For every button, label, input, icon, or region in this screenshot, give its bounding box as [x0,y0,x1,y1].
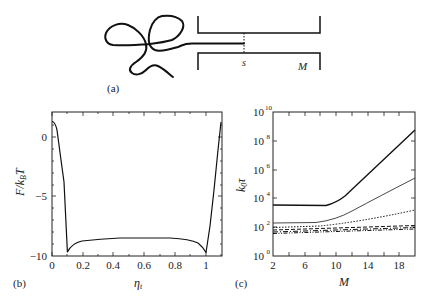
y-tick-1e6: 10 [253,164,265,176]
x-tick-1: 1 [203,259,209,271]
m-label: M [297,60,308,72]
s-label: s [242,57,246,68]
figure: s M (a) [0,0,429,304]
y-tick-exp-8: 8 [267,133,271,141]
pore-top-wall [198,16,320,33]
polymer-chain [105,16,244,77]
y-tick-0: 0 [42,131,48,143]
y-tick-1e4: 10 [253,192,265,204]
x-tick-18: 18 [394,259,406,271]
panel-b-y-axis-label: F/kBT [13,167,28,197]
y-tick-exp-0: 0 [267,248,271,256]
panel-b-line [52,122,72,253]
panel-c-label: (c) [235,277,248,290]
y-tick-1e2: 10 [253,221,265,233]
panel-c-curve-2-solid-thin [273,178,415,223]
panel-a-label: (a) [107,82,120,95]
panel-c-axes-frame [273,112,415,256]
panel-c-curve-1-solid-thick [273,130,415,206]
x-tick-0.4: 0.4 [106,259,120,271]
panel-b-free-energy-line [52,122,68,253]
y-label-tail: τ [234,178,248,183]
panel-a-diagram: s M (a) [105,16,320,95]
y-tick-1e8: 10 [253,135,265,147]
panel-c-y-axis-label: k0τ [234,178,249,192]
panel-b-axes-frame [52,112,222,256]
y-tick-1e0: 10 [253,250,265,262]
panel-b-y-tick-labels: 0 −5 −10 [30,131,48,262]
panel-c-x-axis-label: M [338,275,350,289]
panel-c-x-tick-labels: 2 6 10 14 18 [270,259,405,271]
x-label-sub: t [140,282,143,291]
y-tick-exp-2: 2 [267,219,271,227]
panel-b-free-energy-curve [52,122,75,253]
x-tick-0.6: 0.6 [137,259,151,271]
y-tick-exp-6: 6 [267,162,271,170]
x-tick-0: 0 [49,259,55,271]
panel-c-chart: 2 6 10 14 18 10 0 10 2 10 4 10 6 10 8 10… [234,104,415,290]
panel-b-y-ticks [52,125,222,244]
x-tick-0.2: 0.2 [76,259,90,271]
y-tick-minus-5: −5 [35,190,47,202]
panel-c-x-ticks [289,112,399,256]
y-label-tail: T [13,167,27,175]
y-tick-exp-4: 4 [267,190,271,198]
panel-b-chart: 0 0.2 0.4 0.6 0.8 1 0 −5 −10 ηt F/kBT (b… [13,112,222,291]
panel-c-y-ticks [273,141,415,227]
y-tick-minus-10: −10 [30,250,48,262]
x-tick-10: 10 [331,259,343,271]
panel-b-x-axis-label: ηt [134,276,143,291]
x-tick-0.8: 0.8 [168,259,182,271]
panel-b-curve [52,122,71,253]
panel-b-x-tick-labels: 0 0.2 0.4 0.6 0.8 1 [49,259,209,271]
panel-c-y-tick-labels: 10 0 10 2 10 4 10 6 10 8 10 10 [253,104,273,262]
y-tick-exp-10: 10 [265,104,273,112]
panel-b-series [52,122,221,253]
y-tick-1e10: 10 [253,106,265,118]
x-tick-2: 2 [270,259,276,271]
x-tick-6: 6 [302,259,308,271]
y-label-main: F/k [13,179,27,197]
panel-b-label: (b) [13,277,26,290]
panel-c-curve-3-dotted [273,210,415,228]
x-tick-14: 14 [363,259,375,271]
panel-b-x-ticks [52,112,221,256]
